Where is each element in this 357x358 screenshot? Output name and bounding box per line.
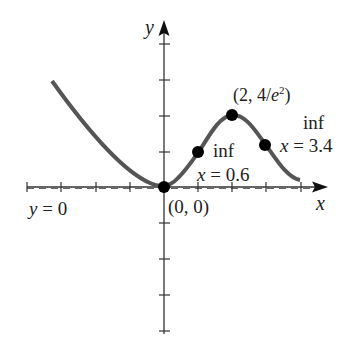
origin-point [158,181,170,193]
chart: y x y = 0 (0, 0) (2, 4/e2) inf x = 0.6 i… [0,0,357,358]
inflection-2-top-label: inf [303,112,325,133]
maximum-label: (2, 4/e2) [233,84,291,106]
inflection-1-top-label: inf [213,140,235,161]
inflection-point-1 [192,146,204,158]
asymptote-label: y = 0 [27,198,67,219]
y-axis-label: y [143,16,154,39]
x-axis [27,182,328,193]
inflection-2-bottom-label: x = 3.4 [279,135,333,156]
inflection-point-2 [259,139,271,151]
inflection-1-bottom-label: x = 0.6 [196,164,249,185]
origin-label: (0, 0) [168,196,209,218]
y-axis [159,20,171,334]
asymptote-eq: = 0 [37,198,67,219]
x-axis-label: x [315,192,325,214]
maximum-point [226,109,238,121]
